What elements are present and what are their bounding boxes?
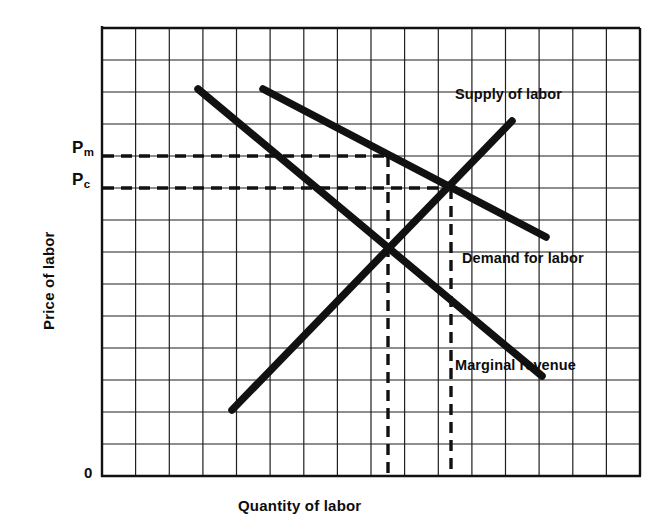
y-tick-pc-base: P: [72, 170, 83, 189]
y-tick-pc-subscript: c: [84, 178, 90, 190]
origin-label: 0: [84, 464, 92, 481]
curve-marginal-revenue: [198, 89, 542, 376]
y-axis-label: Price of labor: [40, 231, 57, 330]
y-tick-pm-base: P: [72, 138, 83, 157]
y-tick-label-pm: Pm: [72, 138, 94, 158]
curve-label-marginal-revenue: Marginal revenue: [455, 357, 576, 373]
y-tick-label-pc: Pc: [72, 170, 90, 190]
labor-market-chart-figure: Price of labor Quantity of labor 0 Pm Pc…: [0, 0, 655, 531]
curve-label-supply-of-labor: Supply of labor: [455, 86, 562, 102]
curve-label-demand-for-labor: Demand for labor: [462, 250, 584, 266]
y-tick-pm-subscript: m: [84, 146, 94, 158]
x-axis-label: Quantity of labor: [238, 497, 361, 514]
